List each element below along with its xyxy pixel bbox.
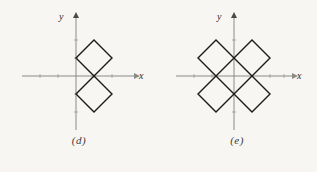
figure-panel-d: y x (d) [0,0,158,172]
upper-left-diamond-e [198,40,234,76]
plot-area-d [0,0,158,140]
upper-diamond-d [76,40,112,76]
x-axis-d [22,73,140,79]
figure-page: y x (d) [0,0,317,172]
upper-right-diamond-e [234,40,270,76]
y-axis-d [73,12,79,130]
y-axis-label-e: y [217,11,221,22]
y-axis-e [231,12,237,130]
figure-panel-e: y x (e) [158,0,316,172]
lower-right-diamond-e [234,76,270,112]
panel-caption-e: (e) [158,134,316,146]
panel-caption-d: (d) [0,134,158,146]
lower-diamond-d [76,76,112,112]
plot-area-e [158,0,316,140]
y-axis-label-d: y [59,11,63,22]
x-axis-label-d: x [139,70,143,81]
lower-left-diamond-e [198,76,234,112]
x-axis-label-e: x [297,70,301,81]
x-axis-e [176,73,298,79]
